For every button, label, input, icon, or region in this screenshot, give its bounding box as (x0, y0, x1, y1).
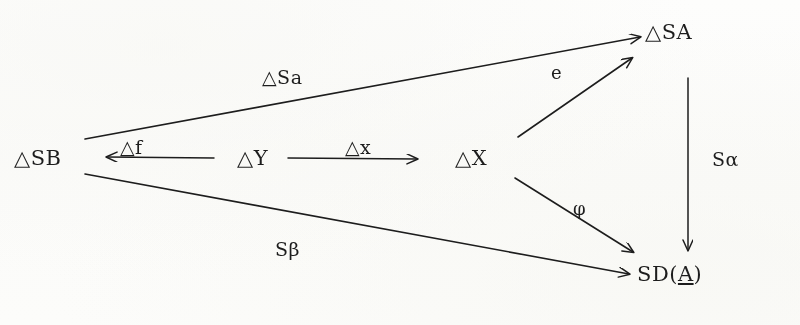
edge-label-delta-f: △f (120, 136, 143, 158)
edge-label-S-alpha: Sα (712, 148, 739, 170)
arrow-S-beta (85, 174, 629, 274)
node-delta-Y: △Y (237, 146, 268, 170)
diagram-canvas: △SB △Y △X △SA SD(A) △f △x △Sa e φ Sβ Sα (0, 0, 800, 325)
node-delta-SA: △SA (645, 20, 692, 44)
node-SD-A-argument: A (678, 262, 694, 286)
arrow-delta-S-alpha-upper (85, 37, 640, 139)
edge-label-e: e (551, 62, 562, 83)
edge-label-phi: φ (573, 198, 586, 219)
node-delta-SB: △SB (14, 146, 61, 170)
node-SD-A-suffix: ) (694, 262, 703, 286)
node-delta-X: △X (455, 146, 487, 170)
edge-label-S-beta: Sβ (275, 238, 300, 260)
edge-label-delta-Sa: △Sa (262, 66, 302, 88)
arrow-e (518, 58, 632, 137)
node-SD-A: SD(A) (637, 262, 702, 286)
node-SD-A-prefix: SD( (637, 262, 678, 286)
arrow-delta-x (288, 158, 417, 159)
edge-label-delta-x: △x (345, 136, 371, 158)
